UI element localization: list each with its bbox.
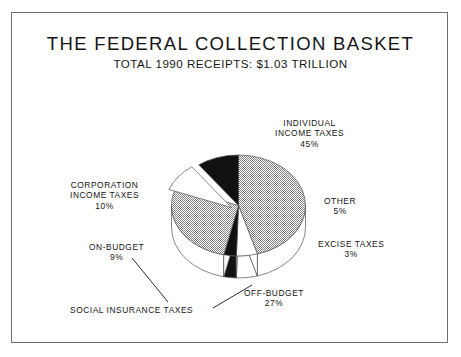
slice-label-corporation-income-taxes: CORPORATION INCOME TAXES 10% (70, 180, 139, 211)
label-percent: 9% (89, 252, 144, 262)
label-line-1: OFF-BUDGET (244, 288, 304, 298)
label-line-2: INCOME TAXES (70, 190, 139, 200)
group-label-social-insurance-taxes: SOCIAL INSURANCE TAXES (70, 305, 193, 315)
slice-label-on-budget: ON-BUDGET 9% (89, 242, 144, 263)
label-line-1: OTHER (324, 196, 356, 206)
label-line-1: EXCISE TAXES (318, 239, 384, 249)
leader-line-1 (132, 258, 168, 302)
label-percent: 45% (275, 139, 344, 149)
label-line-1: SOCIAL INSURANCE TAXES (70, 305, 193, 315)
label-percent: 27% (244, 298, 304, 308)
label-percent: 10% (70, 201, 139, 211)
label-percent: 5% (324, 206, 356, 216)
label-line-1: ON-BUDGET (89, 242, 144, 252)
chart-stage: THE FEDERAL COLLECTION BASKET TOTAL 1990… (0, 0, 461, 357)
slice-label-individual-income-taxes: INDIVIDUAL INCOME TAXES 45% (275, 118, 344, 149)
label-line-1: CORPORATION (71, 180, 139, 190)
slice-label-off-budget: OFF-BUDGET 27% (244, 288, 304, 309)
label-line-2: INCOME TAXES (275, 128, 344, 138)
pie-chart-graphic (0, 0, 461, 357)
label-line-1: INDIVIDUAL (283, 118, 336, 128)
slice-label-other: OTHER 5% (324, 196, 356, 217)
label-percent: 3% (318, 249, 384, 259)
slice-label-excise-taxes: EXCISE TAXES 3% (318, 239, 384, 260)
